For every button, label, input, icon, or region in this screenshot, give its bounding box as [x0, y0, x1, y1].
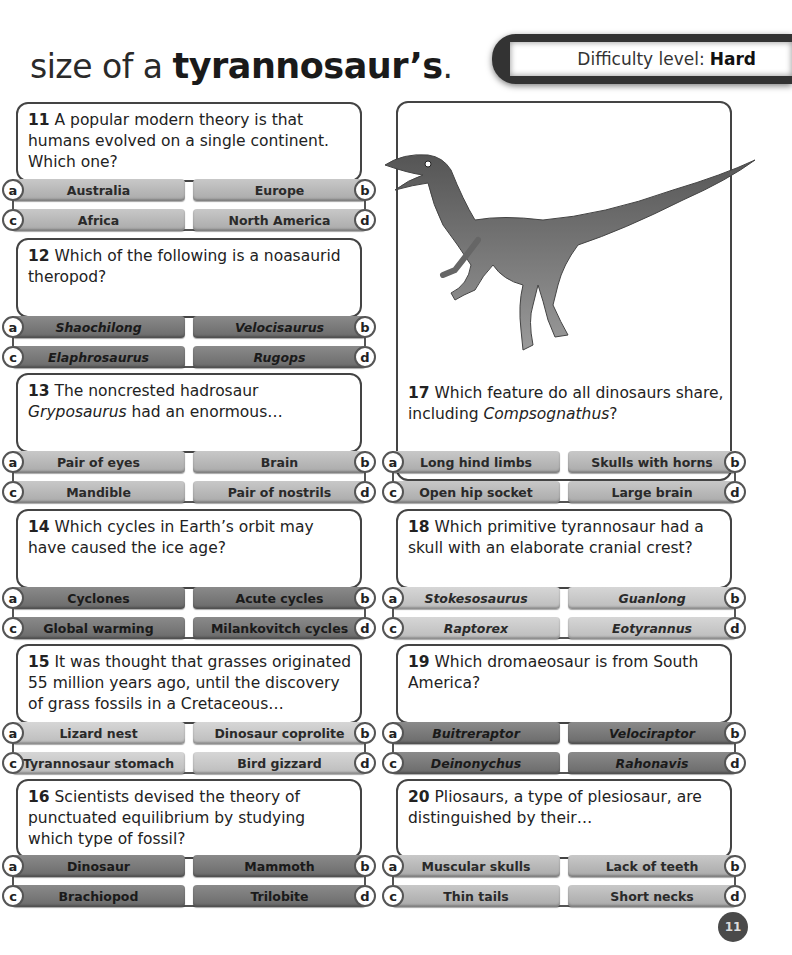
dinosaur-illustration-icon [383, 145, 758, 365]
answer-letter-c: c [382, 617, 404, 639]
answer-letter-c: c [382, 752, 404, 774]
answer-12-c[interactable]: Elaphrosaurus [12, 346, 185, 368]
answer-letter-c: c [2, 481, 24, 503]
answer-letter-a: a [2, 587, 24, 609]
title-emphasis: tyrannosaur’s [173, 46, 443, 86]
answer-14-d[interactable]: Milankovitch cycles [193, 617, 366, 639]
question-text-part: ? [609, 405, 617, 423]
question-number: 13 [28, 382, 50, 400]
question-body: Which of the following is a noasaurid th… [28, 247, 341, 286]
answer-11-b[interactable]: Europe [193, 179, 366, 201]
answer-20-d[interactable]: Short necks [568, 885, 736, 907]
question-text-20: 20 Pliosaurs, a type of plesiosaur, are … [408, 787, 724, 829]
answer-letter-c: c [2, 209, 24, 231]
answer-14-a[interactable]: Cyclones [12, 587, 185, 609]
answer-16-b[interactable]: Mammoth [193, 855, 366, 877]
answer-letter-a: a [382, 451, 404, 473]
answer-19-d[interactable]: Rahonavis [568, 752, 736, 774]
answer-letter-b: b [724, 855, 746, 877]
answer-letter-b: b [354, 722, 376, 744]
answer-letter-d: d [354, 209, 376, 231]
question-text-19: 19 Which dromaeosaur is from South Ameri… [408, 652, 724, 694]
answer-letter-b: b [724, 722, 746, 744]
answer-18-a[interactable]: Stokesosaurus [392, 587, 560, 609]
answer-letter-c: c [2, 752, 24, 774]
answer-letter-b: b [724, 451, 746, 473]
answer-letter-a: a [2, 179, 24, 201]
question-body: Pliosaurs, a type of plesiosaur, are dis… [408, 788, 702, 827]
difficulty-label: Difficulty level:Hard [510, 42, 792, 76]
answer-letter-d: d [724, 885, 746, 907]
answer-13-a[interactable]: Pair of eyes [12, 451, 185, 473]
answer-letter-b: b [724, 587, 746, 609]
question-text-15: 15 It was thought that grasses originate… [28, 652, 354, 715]
answer-12-d[interactable]: Rugops [193, 346, 366, 368]
question-number: 14 [28, 518, 50, 536]
question-number: 20 [408, 788, 430, 806]
answer-19-b[interactable]: Velociraptor [568, 722, 736, 744]
answer-letter-a: a [2, 451, 24, 473]
question-text-part: The noncrested hadrosaur [55, 382, 259, 400]
answer-letter-b: b [354, 855, 376, 877]
answer-12-a[interactable]: Shaochilong [12, 316, 185, 338]
difficulty-value: Hard [710, 49, 756, 69]
answer-13-d[interactable]: Pair of nostrils [193, 481, 366, 503]
answer-11-d[interactable]: North America [193, 209, 366, 231]
answer-19-c[interactable]: Deinonychus [392, 752, 560, 774]
answer-11-c[interactable]: Africa [12, 209, 185, 231]
answer-18-d[interactable]: Eotyrannus [568, 617, 736, 639]
answer-17-a[interactable]: Long hind limbs [392, 451, 560, 473]
question-body: Which dromaeosaur is from South America? [408, 653, 698, 692]
answer-15-d[interactable]: Bird gizzard [193, 752, 366, 774]
answer-letter-d: d [354, 752, 376, 774]
answer-letter-a: a [2, 316, 24, 338]
answer-18-c[interactable]: Raptorex [392, 617, 560, 639]
question-body: A popular modern theory is that humans e… [28, 111, 329, 171]
answer-letter-c: c [382, 481, 404, 503]
answer-letter-a: a [382, 587, 404, 609]
answer-letter-c: c [2, 346, 24, 368]
answer-17-c[interactable]: Open hip socket [392, 481, 560, 503]
question-text-11: 11 A popular modern theory is that human… [28, 110, 354, 173]
answer-12-b[interactable]: Velocisaurus [193, 316, 366, 338]
answer-letter-a: a [2, 855, 24, 877]
answer-16-a[interactable]: Dinosaur [12, 855, 185, 877]
answer-14-c[interactable]: Global warming [12, 617, 185, 639]
answer-14-b[interactable]: Acute cycles [193, 587, 366, 609]
answer-11-a[interactable]: Australia [12, 179, 185, 201]
answer-15-c[interactable]: Tyrannosaur stomach [12, 752, 185, 774]
answer-15-a[interactable]: Lizard nest [12, 722, 185, 744]
question-body: It was thought that grasses originated 5… [28, 653, 351, 713]
answer-16-c[interactable]: Brachiopod [12, 885, 185, 907]
question-number: 16 [28, 788, 50, 806]
answer-letter-b: b [354, 316, 376, 338]
answer-13-b[interactable]: Brain [193, 451, 366, 473]
answer-letter-b: b [354, 587, 376, 609]
title-prefix: size of a [30, 47, 173, 86]
answer-letter-d: d [354, 885, 376, 907]
difficulty-banner: Difficulty level:Hard [492, 34, 792, 84]
answer-15-b[interactable]: Dinosaur coprolite [193, 722, 366, 744]
answer-19-a[interactable]: Buitreraptor [392, 722, 560, 744]
answer-20-b[interactable]: Lack of teeth [568, 855, 736, 877]
answer-letter-a: a [382, 722, 404, 744]
page-number: 11 [718, 912, 748, 942]
answer-20-c[interactable]: Thin tails [392, 885, 560, 907]
answer-letter-a: a [2, 722, 24, 744]
answer-letter-b: b [354, 451, 376, 473]
difficulty-label-text: Difficulty level: [577, 49, 704, 69]
answer-13-c[interactable]: Mandible [12, 481, 185, 503]
answer-17-b[interactable]: Skulls with horns [568, 451, 736, 473]
question-text-italic: Compsognathus [484, 405, 610, 423]
question-body: Which cycles in Earth’s orbit may have c… [28, 518, 314, 557]
answer-18-b[interactable]: Guanlong [568, 587, 736, 609]
answer-20-a[interactable]: Muscular skulls [392, 855, 560, 877]
answer-letter-c: c [382, 885, 404, 907]
question-number: 15 [28, 653, 50, 671]
page-title: size of a tyrannosaur’s. [30, 46, 453, 86]
answer-16-d[interactable]: Trilobite [193, 885, 366, 907]
question-text-part: had an enormous… [127, 403, 283, 421]
answer-letter-d: d [724, 752, 746, 774]
answer-17-d[interactable]: Large brain [568, 481, 736, 503]
question-number: 12 [28, 247, 50, 265]
